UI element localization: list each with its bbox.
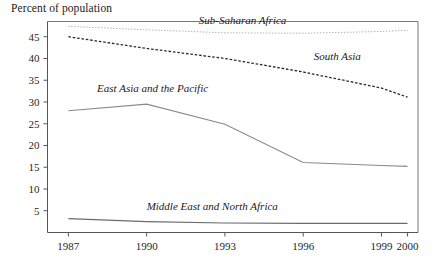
series-labels: Sub-Saharan AfricaSouth AsiaEast Asia an…	[96, 14, 361, 212]
chart-page: Percent of population 51015202530354045 …	[0, 0, 443, 267]
x-tick-label: 1993	[214, 240, 237, 252]
y-tick-label: 30	[29, 96, 41, 108]
series-line	[68, 26, 407, 33]
y-tick-label: 10	[29, 183, 41, 195]
y-tick-label: 20	[29, 139, 41, 151]
y-tick-label: 40	[29, 52, 41, 64]
x-tick-label: 1996	[292, 240, 315, 252]
y-axis-ticks: 51015202530354045	[29, 31, 48, 217]
y-tick-label: 25	[29, 118, 41, 130]
series-line	[68, 104, 407, 166]
x-tick-label: 2000	[397, 240, 420, 252]
x-tick-label: 1987	[57, 240, 80, 252]
series-line	[68, 219, 407, 224]
series-label: South Asia	[314, 50, 362, 62]
y-tick-label: 5	[34, 205, 40, 217]
line-chart: 51015202530354045 1987199019931996199920…	[0, 0, 443, 267]
x-axis-ticks: 198719901993199619992000	[57, 233, 419, 252]
series-label: Sub-Saharan Africa	[199, 14, 287, 26]
x-tick-label: 1990	[136, 240, 159, 252]
y-tick-label: 15	[29, 161, 41, 173]
series-label: Middle East and North Africa	[146, 200, 279, 212]
y-tick-label: 45	[29, 31, 41, 43]
x-tick-label: 1999	[370, 240, 393, 252]
y-tick-label: 35	[29, 74, 41, 86]
series-label: East Asia and the Pacific	[96, 82, 208, 94]
